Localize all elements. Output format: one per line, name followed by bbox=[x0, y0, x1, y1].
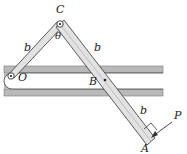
label-P: P bbox=[174, 110, 181, 121]
label-A: A bbox=[141, 143, 149, 154]
label-O: O bbox=[18, 72, 27, 83]
label-B: B bbox=[89, 76, 97, 87]
label-C: C bbox=[56, 4, 64, 15]
pin-C bbox=[57, 21, 63, 27]
label-b-left: b bbox=[24, 42, 31, 53]
slotted-guide bbox=[4, 66, 163, 96]
label-b-right: b bbox=[94, 42, 101, 53]
mechanism-diagram: C O B A P θ b b b bbox=[0, 0, 187, 154]
force-P-arrow bbox=[151, 122, 172, 138]
pin-O bbox=[8, 73, 14, 79]
label-b-lower: b bbox=[140, 105, 147, 116]
label-theta: θ bbox=[55, 31, 61, 41]
pin-B bbox=[104, 79, 107, 82]
